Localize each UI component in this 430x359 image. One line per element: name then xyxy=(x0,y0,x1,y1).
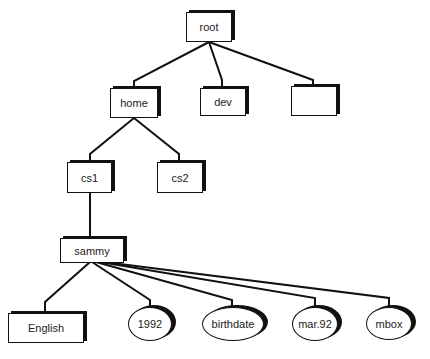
node-1992: 1992 xyxy=(128,307,172,341)
edge-sammy-mbox xyxy=(104,262,389,306)
node-root: root xyxy=(186,12,232,42)
edge-home-cs2 xyxy=(134,118,179,162)
node-english: English xyxy=(8,313,84,343)
node-cs2: cs2 xyxy=(157,162,203,193)
node-mbox: mbox xyxy=(366,307,412,340)
node-birthdate: birthdate xyxy=(202,307,264,341)
node-blank xyxy=(291,86,337,116)
node-cs1: cs1 xyxy=(67,162,112,193)
edge-root-blank xyxy=(209,42,313,86)
node-dev: dev xyxy=(200,88,246,116)
node-sammy: sammy xyxy=(60,238,124,263)
edge-sammy-english xyxy=(45,262,90,313)
node-home: home xyxy=(110,88,158,118)
edge-root-dev xyxy=(209,42,222,88)
edge-root-home xyxy=(134,42,209,88)
tree-edges xyxy=(0,0,430,359)
edge-home-cs1 xyxy=(90,118,134,162)
node-mar92: mar.92 xyxy=(292,307,338,341)
